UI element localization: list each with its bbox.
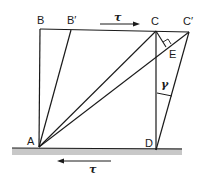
edge-AB — [39, 29, 40, 147]
gamma-label: γ — [161, 79, 168, 90]
edge-AB-prime — [39, 30, 71, 147]
perpendicular-CE — [156, 31, 166, 47]
label-C: C — [151, 16, 159, 27]
label-B: B — [37, 15, 44, 26]
label-A: A — [27, 136, 34, 147]
label-E: E — [169, 49, 176, 60]
edge-top-BC-prime — [40, 29, 189, 32]
diagram-canvas — [0, 0, 206, 176]
label-D: D — [145, 138, 153, 149]
shear-diagram: B B′ C C′ E A D τ τ γ — [0, 0, 206, 176]
tau-bottom-label: τ — [89, 164, 96, 175]
label-C-prime: C′ — [183, 16, 193, 27]
label-B-prime: B′ — [67, 15, 76, 26]
diagonal-AC — [39, 31, 156, 147]
gamma-angle-arc — [157, 93, 172, 96]
tau-top-arrowhead-icon — [133, 22, 140, 27]
tau-top-label: τ — [114, 12, 121, 23]
tau-bottom-arrowhead-icon — [57, 159, 64, 164]
